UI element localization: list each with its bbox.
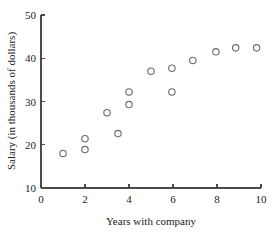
data-point	[169, 65, 175, 71]
data-point	[148, 68, 154, 74]
data-point	[213, 49, 219, 55]
y-axis-ticks	[41, 15, 45, 188]
x-axis-title: Years with company	[106, 215, 196, 227]
x-tick-label: 10	[256, 193, 268, 205]
x-tick-label: 6	[170, 193, 176, 205]
data-point	[253, 45, 259, 51]
y-axis: 1020304050	[25, 9, 45, 194]
y-axis-tick-labels: 1020304050	[25, 9, 37, 194]
data-point	[104, 110, 110, 116]
x-axis-tick-labels: 0246810	[38, 193, 267, 205]
y-tick-label: 30	[25, 96, 37, 108]
data-point	[60, 150, 66, 156]
chart-canvas: 1020304050 0246810 Years with company Sa…	[0, 0, 279, 237]
data-point	[82, 146, 88, 152]
y-axis-title: Salary (in thousands of dollars)	[5, 32, 18, 170]
data-point-series	[60, 45, 260, 157]
y-tick-label: 40	[25, 52, 37, 64]
x-tick-label: 0	[38, 193, 44, 205]
x-axis: 0246810	[38, 184, 267, 205]
x-tick-label: 4	[126, 193, 132, 205]
x-axis-ticks	[41, 184, 261, 188]
x-tick-label: 8	[214, 193, 220, 205]
y-tick-label: 10	[25, 182, 37, 194]
x-tick-label: 2	[82, 193, 88, 205]
scatter-chart: 1020304050 0246810 Years with company Sa…	[0, 0, 279, 237]
y-tick-label: 50	[25, 9, 37, 21]
data-point	[126, 101, 132, 107]
data-point	[169, 89, 175, 95]
data-point	[82, 135, 88, 141]
data-point	[190, 57, 196, 63]
data-point	[126, 89, 132, 95]
y-tick-label: 20	[25, 139, 37, 151]
data-point	[115, 130, 121, 136]
data-point	[233, 45, 239, 51]
